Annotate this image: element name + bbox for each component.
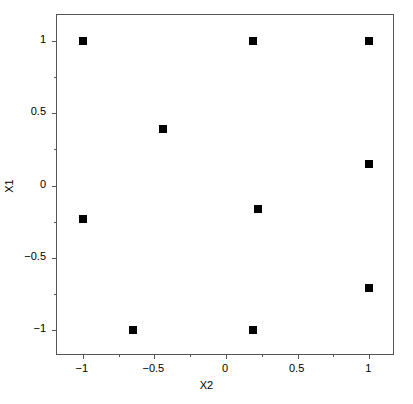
data-point (79, 37, 87, 45)
y-tick-label: 1 (6, 34, 46, 45)
y-tick (52, 186, 57, 187)
data-point (129, 326, 137, 334)
y-minor-tick (54, 294, 57, 295)
x-tick (154, 354, 155, 359)
data-point (79, 215, 87, 223)
x-minor-tick (119, 354, 120, 357)
x-tick-label: 0.5 (277, 363, 317, 374)
x-tick-label: 0 (205, 363, 245, 374)
x-tick-label: 1 (348, 363, 388, 374)
x-tick (298, 354, 299, 359)
y-minor-tick (54, 222, 57, 223)
plot-area (56, 14, 394, 355)
y-tick-label: −1 (6, 323, 46, 334)
data-point (365, 160, 373, 168)
x-axis-title: X2 (0, 379, 413, 391)
y-tick-label: −0.5 (6, 251, 46, 262)
y-tick (52, 41, 57, 42)
data-point (254, 205, 262, 213)
data-point (159, 125, 167, 133)
x-tick-label: −0.5 (133, 363, 173, 374)
x-tick-label: −1 (62, 363, 102, 374)
x-tick (226, 354, 227, 359)
y-tick (52, 330, 57, 331)
x-tick (369, 354, 370, 359)
x-minor-tick (333, 354, 334, 357)
x-minor-tick (190, 354, 191, 357)
y-axis-title: X1 (3, 169, 15, 203)
y-axis-title-wrapper: X1 (2, 172, 16, 202)
data-point (365, 37, 373, 45)
x-tick (83, 354, 84, 359)
data-point (365, 284, 373, 292)
scatter-plot-figure: −1−0.500.51 10.50−0.5−1 X1 X2 (0, 0, 413, 404)
y-tick-label: 0.5 (6, 106, 46, 117)
data-point (249, 326, 257, 334)
y-tick (52, 258, 57, 259)
y-minor-tick (54, 77, 57, 78)
y-tick (52, 113, 57, 114)
y-minor-tick (54, 149, 57, 150)
x-minor-tick (262, 354, 263, 357)
data-point (249, 37, 257, 45)
